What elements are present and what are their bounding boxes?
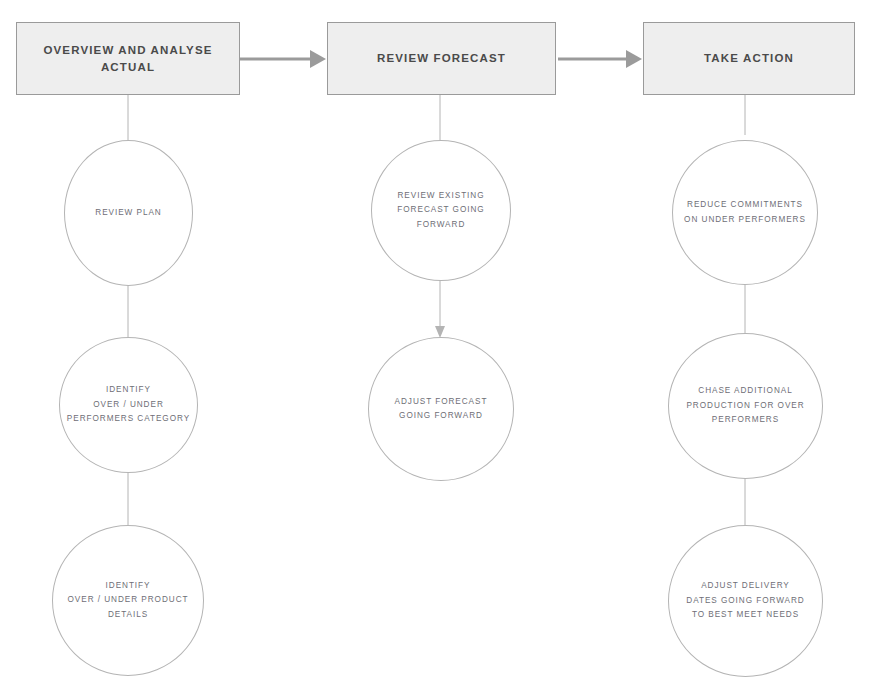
node-label: CHASE ADDITIONAL PRODUCTION FOR OVER PER… xyxy=(680,384,810,427)
node-identify-performers-category[interactable]: IDENTIFY OVER / UNDER PERFORMERS CATEGOR… xyxy=(59,337,198,473)
node-review-existing-forecast[interactable]: REVIEW EXISTING FORECAST GOING FORWARD xyxy=(371,140,511,281)
node-reduce-commitments[interactable]: REDUCE COMMITMENTS ON UNDER PERFORMERS xyxy=(672,140,818,285)
node-identify-product-details[interactable]: IDENTIFY OVER / UNDER PRODUCT DETAILS xyxy=(52,525,204,676)
node-label: IDENTIFY OVER / UNDER PERFORMERS CATEGOR… xyxy=(61,383,196,426)
stage-header-label: REVIEW FORECAST xyxy=(369,50,514,67)
node-label: REDUCE COMMITMENTS ON UNDER PERFORMERS xyxy=(678,198,812,227)
node-review-plan[interactable]: REVIEW PLAN xyxy=(64,140,193,286)
flowchart-canvas: OVERVIEW AND ANALYSE ACTUAL REVIEW FOREC… xyxy=(0,0,871,699)
stage-header-review-forecast[interactable]: REVIEW FORECAST xyxy=(327,22,556,95)
arrow-stage1-to-stage2 xyxy=(236,50,326,68)
arrow-stage2-to-stage3 xyxy=(558,50,642,68)
node-label: ADJUST DELIVERY DATES GOING FORWARD TO B… xyxy=(680,579,810,622)
stage-header-take-action[interactable]: TAKE ACTION xyxy=(643,22,855,95)
stage-header-label: OVERVIEW AND ANALYSE ACTUAL xyxy=(17,42,239,75)
node-adjust-delivery-dates[interactable]: ADJUST DELIVERY DATES GOING FORWARD TO B… xyxy=(668,525,823,677)
arrow-c2-node1-to-node2 xyxy=(435,280,445,338)
stage-header-label: TAKE ACTION xyxy=(696,50,802,67)
node-adjust-forecast[interactable]: ADJUST FORECAST GOING FORWARD xyxy=(368,337,514,481)
node-chase-additional-production[interactable]: CHASE ADDITIONAL PRODUCTION FOR OVER PER… xyxy=(668,333,823,479)
node-label: REVIEW PLAN xyxy=(89,206,167,220)
node-label: IDENTIFY OVER / UNDER PRODUCT DETAILS xyxy=(62,579,195,622)
stage-header-overview-and-analyse-actual[interactable]: OVERVIEW AND ANALYSE ACTUAL xyxy=(16,22,240,95)
node-label: REVIEW EXISTING FORECAST GOING FORWARD xyxy=(391,189,490,232)
node-label: ADJUST FORECAST GOING FORWARD xyxy=(389,395,494,424)
